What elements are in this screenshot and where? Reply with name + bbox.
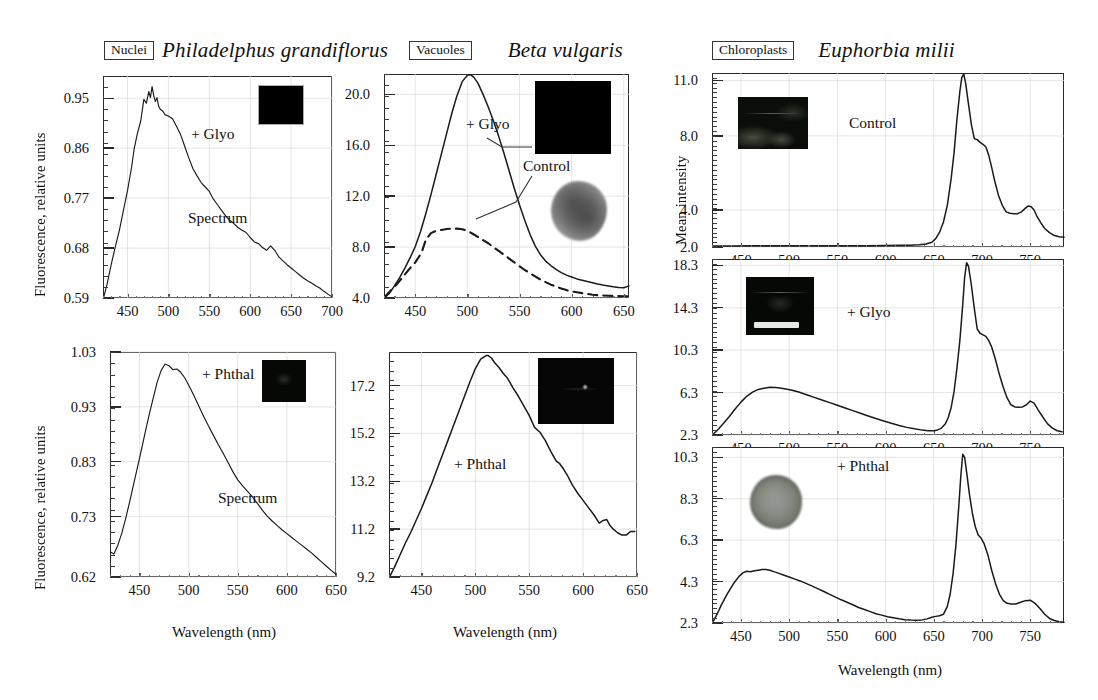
plot-vacuoles-glyo: + Glyo Control 4.08.012.016.020.04505005… <box>384 74 629 298</box>
x-tick-label: 500 <box>778 628 800 645</box>
y-minor-tick <box>384 130 389 131</box>
x-minor-tick <box>582 296 583 299</box>
y-tick-label: 2.3 <box>638 427 698 444</box>
y-minor-tick <box>712 371 717 372</box>
y-minor-tick <box>712 452 717 453</box>
x-minor-tick <box>943 433 944 436</box>
x-minor-tick <box>799 433 800 436</box>
y-minor-tick <box>712 155 717 156</box>
x-minor-tick <box>426 296 427 299</box>
x-minor-tick <box>847 245 848 248</box>
y-minor-tick <box>110 420 115 421</box>
y-minor-tick <box>103 109 108 110</box>
y-minor-tick <box>712 415 717 416</box>
y-minor-tick <box>389 390 394 391</box>
x-minor-tick <box>760 621 761 624</box>
x-minor-tick <box>915 621 916 624</box>
y-minor-tick <box>712 242 717 243</box>
x-minor-tick <box>1059 621 1060 624</box>
y-minor-tick <box>389 446 394 447</box>
x-minor-tick <box>712 245 713 248</box>
x-minor-tick <box>1001 621 1002 624</box>
y-minor-tick <box>389 521 394 522</box>
x-minor-tick <box>770 433 771 436</box>
x-tick-label: 500 <box>158 303 180 320</box>
x-minor-tick <box>953 621 954 624</box>
x-minor-tick <box>238 575 239 578</box>
x-minor-tick <box>982 433 983 436</box>
y-minor-tick <box>712 126 717 127</box>
y-minor-tick <box>712 367 717 368</box>
x-minor-tick <box>130 575 131 578</box>
x-minor-tick <box>1030 621 1031 624</box>
x-minor-tick <box>509 296 510 299</box>
x-minor-tick <box>770 621 771 624</box>
y-minor-tick <box>712 406 717 407</box>
x-minor-tick <box>613 296 614 299</box>
y-minor-tick <box>712 457 717 458</box>
x-minor-tick <box>924 245 925 248</box>
x-minor-tick <box>411 575 412 578</box>
y-minor-tick <box>110 521 115 522</box>
y-minor-tick <box>712 425 717 426</box>
y-minor-tick <box>103 98 108 99</box>
plot-chloroplast-phthal: + Phthal 2.34.36.38.310.3450500550600650… <box>712 447 1064 623</box>
x-minor-tick <box>499 296 500 299</box>
x-minor-tick <box>189 575 190 578</box>
x-minor-tick <box>982 621 983 624</box>
annotation-phthal: + Phthal <box>202 365 254 383</box>
x-minor-tick <box>562 575 563 578</box>
y-minor-tick <box>384 231 389 232</box>
y-minor-tick <box>712 603 717 604</box>
x-minor-tick <box>120 575 121 578</box>
x-tick-label: 600 <box>561 303 583 320</box>
y-minor-tick <box>384 186 389 187</box>
x-minor-tick <box>551 575 552 578</box>
y-tick-label: 0.59 <box>29 290 89 307</box>
x-minor-tick <box>436 296 437 299</box>
y-minor-tick <box>712 564 717 565</box>
y-tick-label: 0.73 <box>36 508 96 525</box>
y-minor-tick <box>712 435 717 436</box>
x-axis-title-left: Wavelength (nm) <box>172 624 276 641</box>
y-minor-tick <box>389 493 394 494</box>
x-minor-tick <box>1050 433 1051 436</box>
x-minor-tick <box>593 296 594 299</box>
x-minor-tick <box>731 433 732 436</box>
x-minor-tick <box>283 296 284 299</box>
x-minor-tick <box>242 296 243 299</box>
x-minor-tick <box>895 433 896 436</box>
x-minor-tick <box>818 245 819 248</box>
y-minor-tick <box>712 545 717 546</box>
y-minor-tick <box>712 496 717 497</box>
y-tick-mark <box>712 209 723 210</box>
y-minor-tick <box>110 498 115 499</box>
annotation-control: Control <box>849 114 896 132</box>
x-minor-tick <box>866 433 867 436</box>
x-minor-tick <box>508 575 509 578</box>
x-minor-tick <box>751 433 752 436</box>
y-minor-tick <box>389 474 394 475</box>
x-minor-tick <box>297 575 298 578</box>
y-axis-title-right: Mean intensity <box>673 85 690 245</box>
y-minor-tick <box>384 74 389 75</box>
y-minor-tick <box>712 471 717 472</box>
y-minor-tick <box>389 465 394 466</box>
x-minor-tick <box>624 296 625 299</box>
y-minor-tick <box>712 559 717 560</box>
y-tick-mark <box>712 80 723 81</box>
y-minor-tick <box>712 102 717 103</box>
y-minor-tick <box>103 220 108 221</box>
x-minor-tick <box>454 575 455 578</box>
y-minor-tick <box>712 160 717 161</box>
y-tick-label: 8.0 <box>310 239 370 256</box>
y-minor-tick <box>712 223 717 224</box>
x-minor-tick <box>886 621 887 624</box>
inset-micrograph-nuclei-glyo <box>258 85 304 125</box>
y-minor-tick <box>712 247 717 248</box>
y-tick-label: 8.0 <box>638 127 698 144</box>
x-minor-tick <box>924 621 925 624</box>
x-minor-tick <box>1050 621 1051 624</box>
x-minor-tick <box>789 621 790 624</box>
x-tick-label: 700 <box>971 628 993 645</box>
